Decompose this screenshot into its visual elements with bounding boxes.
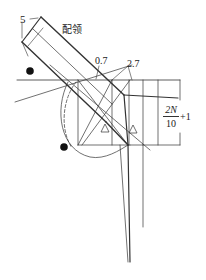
- collar-label: 配领: [62, 25, 82, 35]
- fraction-suffix: +1: [180, 111, 191, 122]
- fraction-numerator: 2N: [165, 104, 177, 115]
- offset-small-label: 0.7: [95, 56, 108, 66]
- fraction-bar: [163, 116, 179, 117]
- triangle-marker: [129, 125, 137, 133]
- fraction-formula: 2N 10 +1: [163, 104, 191, 129]
- dot-marker: [26, 67, 34, 75]
- fraction-denominator: 10: [166, 118, 176, 129]
- dot-marker: [60, 143, 68, 151]
- offset-large-label: 2.7: [127, 59, 140, 69]
- pattern-diagram: [0, 0, 206, 280]
- width-label: 5: [20, 14, 26, 25]
- triangle-marker: [101, 124, 109, 132]
